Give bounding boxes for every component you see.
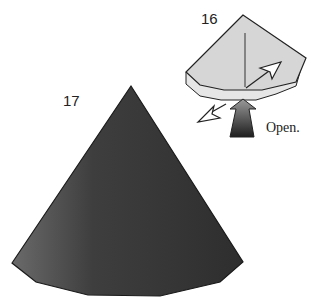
step-number-17: 17 [63, 92, 80, 109]
push-arrow-icon [230, 99, 256, 137]
origami-diagram [0, 0, 328, 304]
step-number-16: 16 [201, 10, 218, 27]
step-caption-16: Open. [266, 120, 300, 136]
step16-model [186, 15, 306, 100]
fold-out-arrow-icon [198, 104, 226, 122]
